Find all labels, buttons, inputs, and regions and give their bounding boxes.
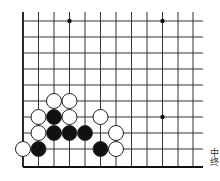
star-point-icon — [160, 19, 164, 23]
star-point-icon — [160, 115, 164, 119]
black-stone — [47, 126, 62, 141]
black-stone — [93, 142, 108, 157]
white-stone — [62, 94, 77, 109]
white-stone — [109, 142, 124, 157]
white-stone — [16, 142, 31, 157]
go-board — [0, 0, 220, 181]
white-stone — [31, 126, 46, 141]
black-stone — [62, 126, 77, 141]
white-stone — [62, 110, 77, 125]
star-point-icon — [67, 19, 71, 23]
black-stone — [78, 126, 93, 141]
black-stone — [31, 142, 46, 157]
white-stone — [31, 110, 46, 125]
white-stone — [93, 110, 108, 125]
white-stone — [109, 126, 124, 141]
diagram-caption: 中终 — [207, 148, 219, 166]
white-stone — [47, 94, 62, 109]
black-stone — [47, 110, 62, 125]
